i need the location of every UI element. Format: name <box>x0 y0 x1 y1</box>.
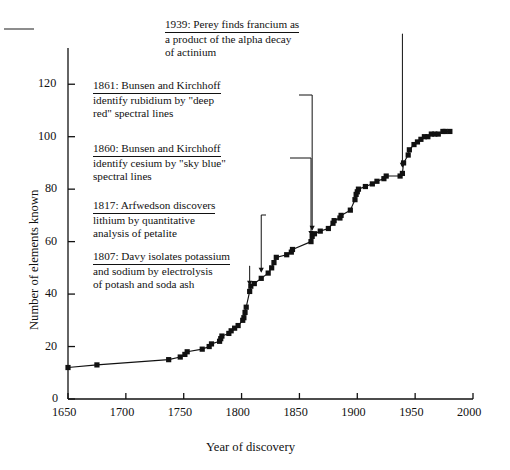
data-point-marker <box>443 129 448 134</box>
x-tick-label: 2000 <box>457 405 481 420</box>
data-point-marker <box>236 323 241 328</box>
data-point-marker <box>200 347 205 352</box>
x-tick-label: 1750 <box>168 405 192 420</box>
y-tick-label: 40 <box>45 286 57 301</box>
chart-plot-area <box>0 0 510 470</box>
data-point-marker <box>406 152 411 157</box>
y-tick-label: 80 <box>45 181 57 196</box>
leader-path <box>261 215 266 271</box>
data-point-marker <box>436 131 441 136</box>
x-tick-label: 1800 <box>226 405 250 420</box>
leader-arrowhead <box>259 268 264 273</box>
leader-arrowhead <box>310 226 315 231</box>
data-point-marker <box>269 265 274 270</box>
data-point-marker <box>352 197 357 202</box>
annotation-line-1: 1807: Davy isolates potassium <box>93 250 230 265</box>
annotation-line-3: of actinium <box>165 46 216 58</box>
annotation-line-1: 1939: Perey finds francium as <box>165 18 299 33</box>
annotation-leader-cesium-1860 <box>290 158 314 236</box>
data-point-marker <box>241 315 246 320</box>
data-point-marker <box>185 349 190 354</box>
data-point-marker <box>266 270 271 275</box>
x-tick-label: 1650 <box>52 405 76 420</box>
data-point-marker <box>407 147 412 152</box>
data-point-marker <box>308 239 313 244</box>
annotation-leader-rubidium-1861 <box>299 95 315 231</box>
data-point-marker <box>332 218 337 223</box>
annotation-potassium-1807: 1807: Davy isolates potassium and sodium… <box>93 250 230 292</box>
x-axis-title: Year of discovery <box>206 440 295 455</box>
annotation-line-3: spectral lines <box>93 170 152 182</box>
annotation-line-1: 1817: Arfwedson discovers <box>93 199 215 214</box>
y-tick-label: 0 <box>52 391 58 406</box>
y-tick-label: 100 <box>38 129 56 144</box>
data-point-marker <box>166 357 171 362</box>
data-point-marker <box>326 226 331 231</box>
data-point-marker <box>244 305 249 310</box>
data-point-marker <box>348 208 353 213</box>
annotation-rubidium-1861: 1861: Bunsen and Kirchhoff identify rubi… <box>93 79 221 121</box>
data-point-marker <box>94 362 99 367</box>
data-point-marker <box>65 365 70 370</box>
annotation-leader-potassium-1807 <box>247 266 252 286</box>
data-point-marker <box>356 187 361 192</box>
x-tick-label: 1950 <box>399 405 423 420</box>
annotation-line-2: identify cesium by "sky blue" <box>93 157 226 169</box>
data-point-marker <box>271 260 276 265</box>
data-point-marker <box>252 281 257 286</box>
data-point-marker <box>370 181 375 186</box>
annotation-line-2: and sodium by electrolysis <box>93 265 213 277</box>
annotation-line-3: analysis of petalite <box>93 227 177 239</box>
data-point-marker <box>259 276 264 281</box>
annotation-line-2: a product of the alpha decay <box>165 33 291 45</box>
annotation-line-2: identify rubidium by "deep <box>93 94 214 106</box>
annotation-leader-francium-1939 <box>400 34 405 168</box>
annotation-line-3: red" spectral lines <box>93 107 173 119</box>
data-point-marker <box>338 213 343 218</box>
annotation-cesium-1860: 1860: Bunsen and Kirchhoff identify cesi… <box>93 142 226 184</box>
leader-path <box>290 158 311 235</box>
y-tick-label: 20 <box>45 339 57 354</box>
data-point-marker <box>284 252 289 257</box>
data-point-marker <box>290 247 295 252</box>
annotation-line-1: 1860: Bunsen and Kirchhoff <box>93 142 221 157</box>
data-point-marker <box>400 171 405 176</box>
data-point-marker <box>247 289 252 294</box>
annotation-lithium-1817: 1817: Arfwedson discovers lithium by qua… <box>93 199 215 241</box>
annotation-francium-1939: 1939: Perey finds francium as a product … <box>165 18 299 60</box>
annotation-line-2: lithium by quantitative <box>93 214 195 226</box>
data-point-marker <box>363 184 368 189</box>
x-tick-label: 1850 <box>283 405 307 420</box>
y-axis-title: Number of elements known <box>27 190 42 330</box>
data-point-marker <box>242 310 247 315</box>
data-point-marker <box>209 341 214 346</box>
chart-figure: 1939: Perey finds francium as a product … <box>0 0 510 470</box>
annotation-line-1: 1861: Bunsen and Kirchhoff <box>93 79 221 94</box>
x-tick-label: 1700 <box>110 405 134 420</box>
y-tick-label: 60 <box>45 234 57 249</box>
y-tick-label: 120 <box>38 76 56 91</box>
data-point-marker <box>219 333 224 338</box>
data-point-marker <box>447 129 452 134</box>
annotation-leader-lithium-1817 <box>259 215 266 273</box>
x-tick-label: 1900 <box>341 405 365 420</box>
data-point-marker <box>318 229 323 234</box>
data-point-marker <box>384 173 389 178</box>
leader-path <box>402 34 403 166</box>
data-point-marker <box>374 179 379 184</box>
data-point-marker <box>178 354 183 359</box>
leader-path <box>299 95 312 229</box>
annotation-line-3: of potash and soda ash <box>93 278 194 290</box>
data-point-marker <box>274 255 279 260</box>
